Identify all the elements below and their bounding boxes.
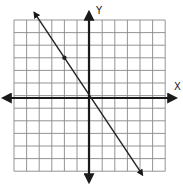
x-axis-label: X [174, 81, 181, 92]
y-axis-label: Y [95, 5, 103, 16]
marked-point [62, 56, 66, 60]
coordinate-plane: X Y [0, 0, 183, 185]
